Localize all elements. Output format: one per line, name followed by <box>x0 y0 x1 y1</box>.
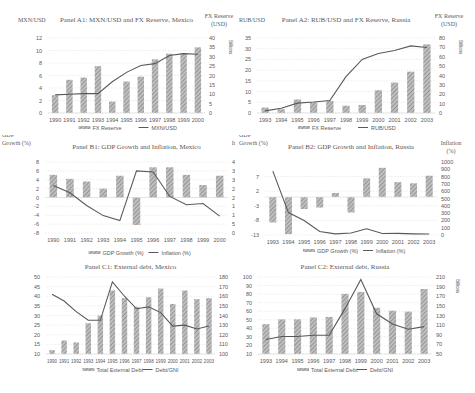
y-tick-left: 50 <box>34 274 40 280</box>
y-tick-left: 12 <box>36 35 42 41</box>
y-tick-right: 30 <box>439 82 445 88</box>
y-tick-left: 10 <box>245 89 251 95</box>
y-tick-right: 130 <box>219 322 228 328</box>
legend: GDP Growth (%)Inflation (%) <box>89 250 192 256</box>
x-tick: 2002 <box>407 239 419 245</box>
y-tick-right: 35 <box>209 44 215 50</box>
y-tick-left: -13 <box>251 232 259 238</box>
y-tick-left: 25 <box>34 322 40 328</box>
bar <box>99 189 106 198</box>
svg-text:FX Reserve: FX Reserve <box>93 125 122 131</box>
bar <box>332 193 339 197</box>
y-tick-right: 180 <box>219 274 228 280</box>
svg-text:Total External Debt: Total External Debt <box>97 367 144 373</box>
y-tick-left: -2 <box>34 203 39 209</box>
unit-label: Billions <box>458 40 463 55</box>
bar <box>216 176 223 198</box>
x-tick: 2000 <box>376 239 388 245</box>
y-tick-left: 40 <box>246 325 252 331</box>
x-tick: 1991 <box>59 359 70 364</box>
chart-title: Panel B1: GDP Growth and Inflation, Mexi… <box>72 143 201 151</box>
y-tick-left: 70 <box>246 300 252 306</box>
x-tick: 1995 <box>298 239 310 245</box>
x-tick: 1998 <box>143 359 154 364</box>
left-axis-label: Growth (%) <box>239 140 268 147</box>
unit-label: Billions <box>455 279 460 294</box>
bar <box>122 298 127 354</box>
y-tick-left: 2 <box>256 188 259 194</box>
x-tick: 1995 <box>107 359 118 364</box>
y-tick-right: 500 <box>441 196 450 202</box>
y-tick-right: 20 <box>209 73 215 79</box>
bar <box>426 176 433 197</box>
bar <box>138 77 144 113</box>
bar <box>116 176 123 198</box>
y-tick-right: 600 <box>441 188 450 194</box>
y-tick-left: 8 <box>39 60 42 66</box>
x-tick: 2002 <box>405 117 417 123</box>
left-axis-label: RUB/USD <box>239 17 266 23</box>
x-tick: 2002 <box>192 359 203 364</box>
x-tick: 2003 <box>204 359 215 364</box>
legend: Total External DebtDebt/GNI <box>83 367 179 373</box>
y-tick-right: 80 <box>439 35 445 41</box>
y-tick-left: 30 <box>245 46 251 52</box>
y-tick-left: 60 <box>246 308 252 314</box>
y-tick-right: 0 <box>209 110 212 116</box>
svg-text:MXN/USD: MXN/USD <box>152 125 177 131</box>
right-axis-label: (%) <box>447 148 456 155</box>
y-tick-right: 130 <box>436 313 445 319</box>
y-tick-left: 10 <box>36 48 42 54</box>
y-tick-left: 35 <box>34 303 40 309</box>
y-tick-right: 20 <box>439 91 445 97</box>
y-tick-left: -4 <box>34 212 39 218</box>
x-tick: 2001 <box>180 359 191 364</box>
y-tick-right: 50 <box>439 63 445 69</box>
bar <box>342 106 349 113</box>
y-tick-left: 10 <box>34 351 40 357</box>
x-tick: 2000 <box>372 117 384 123</box>
x-tick: 2001 <box>392 239 404 245</box>
y-tick-right: 40 <box>439 73 445 79</box>
svg-text:FX Reserve: FX Reserve <box>312 125 341 131</box>
bar <box>95 66 101 113</box>
y-tick-right: 70 <box>436 341 442 347</box>
bar <box>316 197 323 208</box>
x-tick: 1995 <box>120 117 132 123</box>
y-tick-left: 80 <box>246 291 252 297</box>
bar <box>146 297 151 354</box>
y-tick-right: 15 <box>209 82 215 88</box>
x-tick: 1992 <box>78 117 90 123</box>
right-axis-label: (USD) <box>211 21 227 28</box>
bar <box>52 95 58 113</box>
bar <box>183 175 190 198</box>
y-tick-right: 800 <box>441 174 450 180</box>
unit-label: Billions <box>228 40 233 55</box>
y-tick-right: 30 <box>209 54 215 60</box>
bar <box>341 294 348 354</box>
y-tick-right: 150 <box>436 303 445 309</box>
bar <box>357 292 364 354</box>
bar <box>49 350 54 354</box>
x-tick: 1991 <box>63 117 75 123</box>
y-tick-right: 190 <box>436 284 445 290</box>
y-tick-left: 4 <box>36 177 39 183</box>
chart-panel-b2: Panel B2: GDP Growth and Inflation, Russ… <box>235 135 475 264</box>
y-tick-left: 4 <box>39 85 42 91</box>
y-tick-left: 20 <box>246 342 252 348</box>
svg-text:GDP Growth (%): GDP Growth (%) <box>317 248 358 254</box>
bar <box>363 178 370 197</box>
bar <box>73 342 78 354</box>
y-tick-left: -6 <box>34 221 39 227</box>
x-tick: 1998 <box>180 237 192 243</box>
x-tick: 1999 <box>197 237 209 243</box>
x-tick: 1999 <box>361 239 373 245</box>
bar <box>375 90 382 113</box>
right-axis-label: FX Reserve <box>205 13 234 19</box>
chart-title: Panel C2: External debt, Russia <box>301 263 391 271</box>
x-tick: 1996 <box>119 359 130 364</box>
bar <box>373 308 380 354</box>
x-tick: 1991 <box>64 237 76 243</box>
y-tick-left: 100 <box>243 274 252 280</box>
chart-panel-a2: Panel A2: RUB/USD and FX Reserve, Russia… <box>235 0 475 139</box>
